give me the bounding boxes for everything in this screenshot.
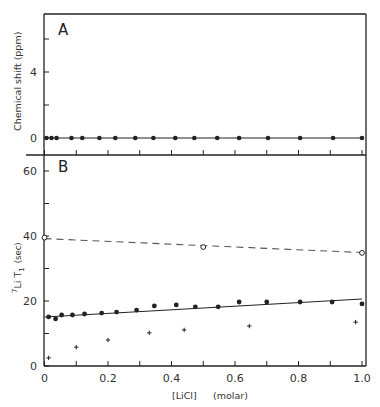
filled-circle-point <box>264 300 269 305</box>
data-point-a <box>113 136 118 141</box>
filled-circle-point <box>59 313 64 318</box>
data-point-a <box>331 136 336 141</box>
filled-circle-point <box>216 304 221 309</box>
x-axis-unit: (molar) <box>213 390 248 401</box>
filled-circle-point <box>237 300 242 305</box>
y-tick-label-b: 40 <box>23 230 37 243</box>
data-point-a <box>49 136 54 141</box>
filled-circle-point <box>360 302 365 307</box>
x-tick-label: 0.6 <box>226 372 244 385</box>
y-tick-label-a: 0 <box>30 132 37 145</box>
data-point-a <box>44 136 49 141</box>
plot-frame: 00.20.40.60.81.0 <box>26 14 371 385</box>
open-circle-point <box>42 235 47 240</box>
filled-circle-point <box>99 311 104 316</box>
data-point-a <box>266 136 271 141</box>
filled-circle-point <box>53 316 58 321</box>
filled-circle-point <box>298 300 303 305</box>
data-point-a <box>360 136 365 141</box>
x-tick-label: 0 <box>41 372 48 385</box>
data-point-a <box>173 136 178 141</box>
y-axis-title-b: 7Li T1(sec) <box>11 242 26 293</box>
x-axis-title: [LiCl] <box>172 390 197 401</box>
filled-circle-point <box>174 303 179 308</box>
data-point-a <box>80 136 85 141</box>
data-point-a <box>133 136 138 141</box>
y-axis-title-b-unit: (sec) <box>13 242 23 263</box>
filled-circle-point <box>70 313 75 318</box>
panel-a-label: A <box>58 21 69 39</box>
data-point-a <box>298 136 303 141</box>
y-tick-label-a: 4 <box>30 66 37 79</box>
open-circle-point <box>201 245 206 250</box>
filled-circle-point <box>46 315 51 320</box>
data-point-a <box>97 136 102 141</box>
panel-b-label: B <box>58 158 68 176</box>
x-tick-label: 0.4 <box>163 372 181 385</box>
data-point-a <box>192 136 197 141</box>
figure: 00.20.40.60.81.0 04 0204060 A B Chemical… <box>0 0 380 407</box>
panel-a: 04 <box>30 39 364 145</box>
axis-labels: A B Chemical shift (ppm) 7Li T1(sec) [Li… <box>11 21 248 401</box>
x-tick-label: 0.2 <box>99 372 117 385</box>
y-tick-label-b: 60 <box>23 165 37 178</box>
filled-circle-point <box>114 310 119 315</box>
data-point-a <box>54 136 59 141</box>
filled-circle-point <box>193 304 198 309</box>
data-point-a <box>69 136 74 141</box>
y-tick-label-b: 0 <box>30 360 37 373</box>
x-tick-label: 1.0 <box>353 372 371 385</box>
data-point-a <box>237 136 242 141</box>
svg-text:7Li T1(sec): 7Li T1(sec) <box>11 242 26 293</box>
data-point-a <box>151 136 156 141</box>
x-tick-label: 0.8 <box>290 372 308 385</box>
y-tick-label-b: 20 <box>23 295 37 308</box>
filled-circle-point <box>330 300 335 305</box>
y-axis-title-a: Chemical shift (ppm) <box>12 32 23 131</box>
filled-circle-point <box>82 312 87 317</box>
subscript: 1 <box>18 267 26 271</box>
panel-b: 0204060 <box>23 165 364 373</box>
solid-fit-line <box>45 299 363 317</box>
filled-circle-point <box>152 303 157 308</box>
open-circle-point <box>360 251 365 256</box>
filled-circle-point <box>134 308 139 313</box>
data-point-a <box>215 136 220 141</box>
y-axis-title-b-main: Li T <box>12 272 23 289</box>
